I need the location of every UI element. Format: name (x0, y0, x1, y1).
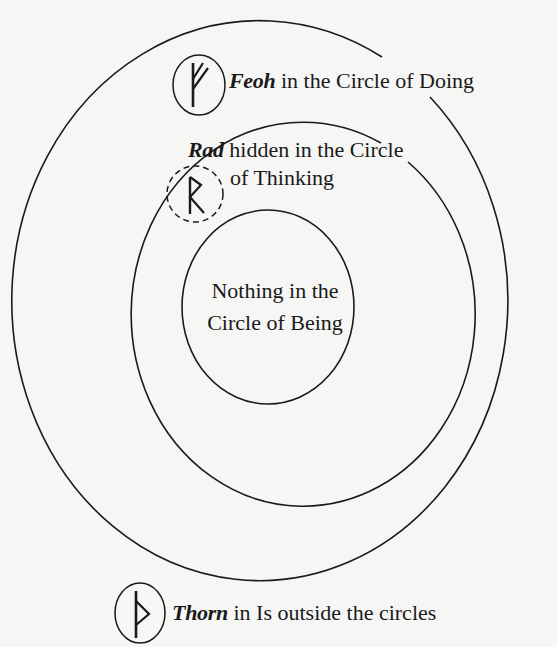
thorn-rune-icon (115, 583, 165, 643)
rad-label: Rad hidden in the Circleof Thinking (188, 136, 403, 192)
being-label-line2: Circle of Being (190, 307, 360, 339)
being-label-line1: Nothing in the (190, 275, 360, 307)
feoh-rune-icon (173, 55, 225, 115)
feoh-rune-name: Feoh (229, 68, 275, 93)
feoh-label: Feoh in the Circle of Doing (229, 68, 474, 94)
thorn-label-text: in Is outside the circles (228, 600, 436, 625)
rad-label-text-line2: of Thinking (188, 164, 403, 192)
rad-label-text-line1: hidden in the Circle (224, 137, 404, 162)
rad-rune-name: Rad (188, 137, 224, 162)
feoh-label-text: in the Circle of Doing (275, 68, 474, 93)
being-label: Nothing in theCircle of Being (190, 275, 360, 339)
thorn-label: Thorn in Is outside the circles (172, 600, 436, 626)
thorn-rune-name: Thorn (172, 600, 228, 625)
